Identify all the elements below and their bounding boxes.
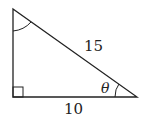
top-angle-arc — [13, 22, 31, 31]
hypotenuse-label: 15 — [84, 37, 103, 55]
base-label: 10 — [64, 100, 83, 118]
theta-angle-arc — [115, 84, 119, 97]
triangle-diagram: 15 10 θ — [0, 0, 146, 119]
right-angle-marker — [13, 87, 23, 97]
angle-theta-label: θ — [101, 80, 110, 96]
triangle — [13, 9, 137, 97]
